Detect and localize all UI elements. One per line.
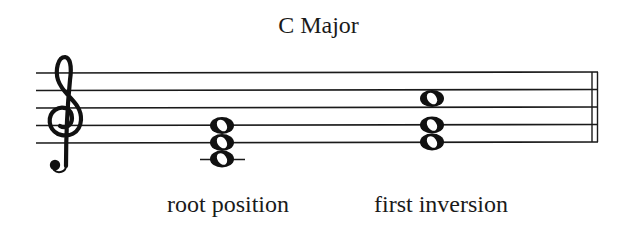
treble-clef-bulb	[50, 160, 60, 170]
note-G4	[420, 117, 444, 134]
staff-lines	[36, 72, 598, 143]
note-C5	[420, 90, 444, 107]
label-root-position: root position	[167, 191, 289, 218]
note-E4	[210, 134, 234, 151]
staff-line-2	[36, 90, 598, 91]
staff-line-4	[36, 125, 598, 126]
music-staff	[0, 0, 625, 233]
treble-clef-icon	[50, 57, 81, 172]
chord-first-inversion	[420, 90, 444, 151]
staff-line-3	[36, 107, 598, 108]
staff-line-1	[36, 72, 598, 73]
staff-line-5	[36, 142, 598, 143]
note-E4	[420, 134, 444, 151]
note-C4	[210, 151, 234, 168]
note-G4	[210, 117, 234, 134]
label-first-inversion: first inversion	[374, 191, 508, 218]
